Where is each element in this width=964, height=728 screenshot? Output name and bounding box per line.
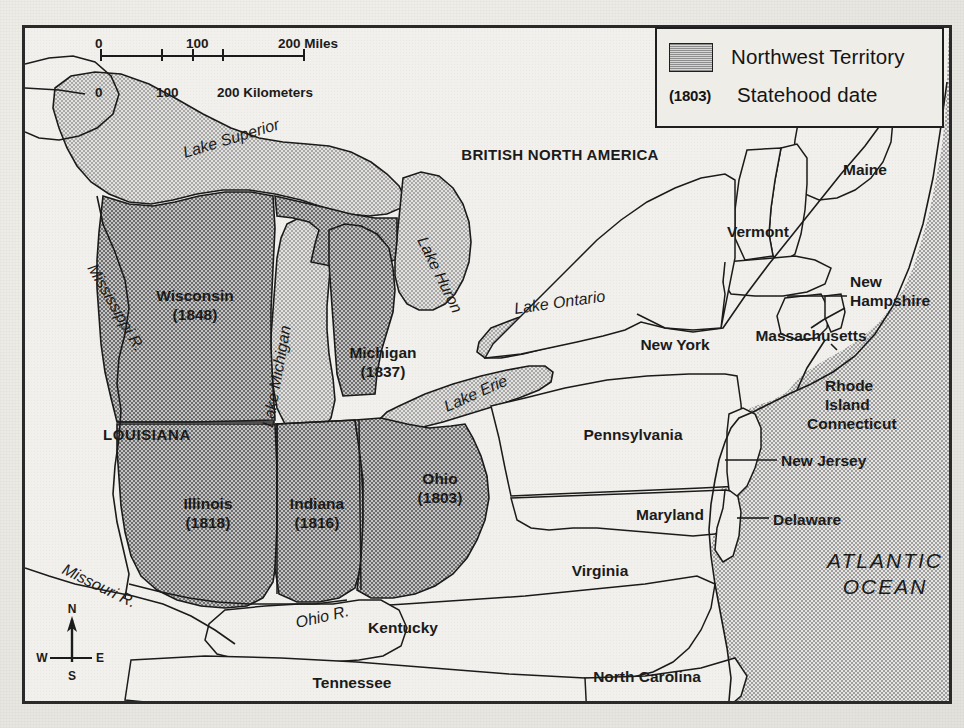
label-new-hampshire-line1: New xyxy=(850,273,883,290)
scale-km-tick-0: 0 xyxy=(95,85,103,100)
label-tennessee: Tennessee xyxy=(313,674,392,691)
compass-n-label: N xyxy=(68,602,77,616)
label-illinois-date: (1818) xyxy=(186,514,231,531)
compass-svg: N S E W xyxy=(30,600,114,684)
scale-miles-row: 0 100 200 Miles xyxy=(92,36,344,53)
label-british-north-america: BRITISH NORTH AMERICA xyxy=(461,146,658,163)
legend-territory-label: Northwest Territory xyxy=(731,45,905,69)
label-indiana-date: (1816) xyxy=(295,514,340,531)
scale-miles-tick-100: 100 xyxy=(186,36,209,51)
label-delaware: Delaware xyxy=(773,511,841,528)
scale-km-row: 0 100 200 Kilometers xyxy=(92,53,344,70)
compass-e-label: E xyxy=(96,651,104,665)
label-wisconsin-date: (1848) xyxy=(173,306,218,323)
label-maryland: Maryland xyxy=(636,506,704,523)
legend-territory-swatch xyxy=(669,43,713,72)
label-ohio: Ohio xyxy=(422,470,457,487)
label-pennsylvania: Pennsylvania xyxy=(583,426,682,443)
scale-km-tick-100: 100 xyxy=(156,85,179,100)
label-louisiana: LOUISIANA xyxy=(103,426,191,443)
label-rhode-island-line2: Island xyxy=(825,396,870,413)
label-ohio-date: (1803) xyxy=(418,489,463,506)
map-legend: Northwest Territory (1803) Statehood dat… xyxy=(655,27,944,128)
legend-date-key: (1803) xyxy=(669,87,731,104)
label-new-hampshire-line2: Hampshire xyxy=(850,292,930,309)
label-connecticut: Connecticut xyxy=(807,415,897,432)
label-vermont: Vermont xyxy=(727,223,789,240)
legend-date-label: Statehood date xyxy=(737,83,877,107)
label-north-carolina: North Carolina xyxy=(593,668,701,685)
compass-rose: N S E W xyxy=(30,600,114,684)
label-michigan: Michigan xyxy=(349,344,416,361)
label-indiana: Indiana xyxy=(290,495,345,512)
label-atlantic-line2: OCEAN xyxy=(843,575,928,598)
label-new-jersey: New Jersey xyxy=(781,452,867,469)
compass-s-label: S xyxy=(68,669,76,683)
label-wisconsin: Wisconsin xyxy=(156,287,233,304)
label-new-york: New York xyxy=(640,336,710,353)
label-maine: Maine xyxy=(843,161,887,178)
label-kentucky: Kentucky xyxy=(368,619,438,636)
map-canvas: Lake Superior Lake Michigan Lake Huron L… xyxy=(25,28,949,701)
label-atlantic-line1: ATLANTIC xyxy=(825,549,943,572)
label-rhode-island-line1: Rhode xyxy=(825,377,874,394)
scale-bar: 0 100 200 Miles 0 100 200 Kilometers xyxy=(92,36,344,92)
scale-miles-tick-200: 200 Miles xyxy=(278,36,338,51)
compass-w-label: W xyxy=(36,651,48,665)
label-illinois: Illinois xyxy=(183,495,232,512)
label-virginia: Virginia xyxy=(572,562,629,579)
legend-row-territory: Northwest Territory xyxy=(669,38,932,76)
legend-row-date: (1803) Statehood date xyxy=(669,76,932,114)
scale-km-tick-200: 200 Kilometers xyxy=(217,85,313,100)
label-massachusetts: Massachusetts xyxy=(755,327,866,344)
label-michigan-date: (1837) xyxy=(361,363,406,380)
